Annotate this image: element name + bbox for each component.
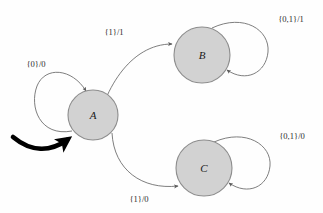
state-b-label: B [199, 49, 206, 61]
fsm-diagram-canvas: {0}/0 {0,1}/1 {0,1}/0 {1}/1 {1}/0 [0, 0, 323, 213]
initial-state-arrow-path [13, 137, 67, 149]
fsm-svg: {0}/0 {0,1}/1 {0,1}/0 {1}/1 {1}/0 [0, 0, 323, 213]
initial-state-arrow [13, 137, 67, 149]
state-a[interactable]: A [68, 90, 118, 140]
transition-a-self-label: {0}/0 [26, 59, 45, 69]
transition-a-to-c-path [112, 133, 178, 187]
transition-c-self-label: {0,1}/0 [279, 131, 305, 141]
transition-a-to-c-label: {1}/0 [129, 194, 148, 204]
state-c[interactable]: C [176, 140, 232, 196]
state-a-label: A [89, 109, 97, 121]
transition-a-to-b-label: {1}/1 [104, 27, 123, 37]
state-b[interactable]: B [174, 27, 230, 83]
transition-a-to-c[interactable]: {1}/0 [112, 133, 178, 204]
state-c-label: C [200, 162, 208, 174]
transition-b-self-label: {0,1}/1 [278, 14, 304, 24]
